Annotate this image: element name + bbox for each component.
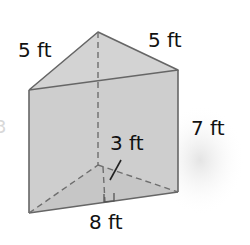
front-left-face [29,70,178,213]
label-base: 8 ft [89,212,123,232]
label-top-right-edge: 5 ft [148,30,182,50]
label-height: 7 ft [191,118,225,138]
ghost-text: 3 [0,118,6,136]
label-top-left-edge: 5 ft [18,40,52,60]
triangular-prism-figure: 3 5 ft 5 ft 7 ft 3 ft 8 ft [0,0,250,245]
label-triangle-height: 3 ft [110,133,144,153]
